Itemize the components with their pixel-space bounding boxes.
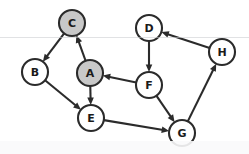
graph-canvas: ABCDEFGH <box>0 0 249 154</box>
edge-c-to-b <box>46 33 64 57</box>
node-circle-d[interactable] <box>136 15 162 41</box>
node-circle-g[interactable] <box>169 120 195 146</box>
graph-diagram: ABCDEFGH <box>0 0 249 154</box>
arrowhead-e-to-g-icon <box>161 126 169 133</box>
graph-node-h[interactable]: H <box>209 39 235 65</box>
graph-node-g[interactable]: G <box>169 120 195 146</box>
arrowhead-f-to-a-icon <box>103 74 111 80</box>
node-layer: ABCDEFGH <box>22 10 235 146</box>
edge-f-to-g <box>156 96 171 118</box>
node-circle-f[interactable] <box>136 72 162 98</box>
node-circle-e[interactable] <box>78 105 104 131</box>
arrowhead-a-to-e-icon <box>87 97 94 105</box>
edge-g-to-h <box>188 69 214 121</box>
edge-e-to-g <box>104 120 164 130</box>
graph-node-a[interactable]: A <box>77 60 103 86</box>
edge-layer <box>43 31 216 133</box>
edge-f-to-a <box>109 77 137 83</box>
arrowhead-d-to-f-icon <box>146 65 153 73</box>
graph-node-d[interactable]: D <box>136 15 162 41</box>
graph-node-e[interactable]: E <box>78 105 104 131</box>
edge-a-to-c <box>78 41 85 61</box>
graph-node-c[interactable]: C <box>59 10 85 36</box>
graph-node-b[interactable]: B <box>22 59 48 85</box>
node-circle-b[interactable] <box>22 59 48 85</box>
edge-h-to-d <box>167 34 210 48</box>
node-circle-a[interactable] <box>77 60 103 86</box>
graph-node-f[interactable]: F <box>136 72 162 98</box>
arrowhead-a-to-c-icon <box>76 35 82 43</box>
edge-b-to-e <box>45 80 76 106</box>
arrowhead-h-to-d-icon <box>161 31 169 37</box>
node-circle-h[interactable] <box>209 39 235 65</box>
node-circle-c[interactable] <box>59 10 85 36</box>
